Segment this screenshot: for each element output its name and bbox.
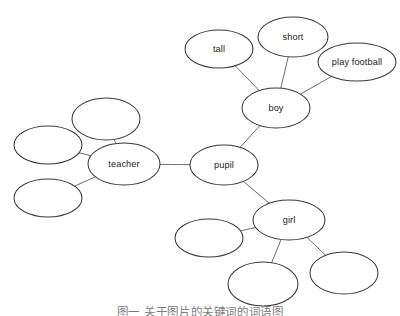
node-girl_blank_left[interactable] bbox=[175, 219, 243, 257]
edge-teacher-to-teacher_blank_left bbox=[79, 153, 91, 156]
node-teacher_blank_top[interactable] bbox=[72, 98, 140, 140]
node-label-teacher: teacher bbox=[108, 159, 139, 169]
node-pupil[interactable]: pupil bbox=[190, 145, 258, 185]
edge-pupil-to-girl bbox=[243, 181, 269, 203]
node-shape-girl_blank_right bbox=[310, 252, 378, 294]
node-label-tall: tall bbox=[213, 44, 225, 54]
node-girl_blank_bottom[interactable] bbox=[228, 262, 298, 306]
node-girl_blank_right[interactable] bbox=[310, 252, 378, 294]
node-label-boy: boy bbox=[268, 103, 283, 113]
node-label-girl: girl bbox=[283, 215, 296, 225]
edge-boy-to-play_football bbox=[300, 76, 331, 94]
node-label-pupil: pupil bbox=[214, 160, 234, 170]
node-shape-teacher_blank_bottom bbox=[14, 179, 82, 217]
edge-pupil-to-boy bbox=[240, 126, 260, 148]
edge-girl-to-girl_blank_left bbox=[241, 228, 256, 231]
node-tall[interactable]: tall bbox=[185, 30, 253, 68]
node-shape-girl_blank_left bbox=[175, 219, 243, 257]
node-teacher[interactable]: teacher bbox=[88, 143, 160, 185]
node-shape-girl_blank_bottom bbox=[228, 262, 298, 306]
node-teacher_blank_bottom[interactable] bbox=[14, 179, 82, 217]
node-play_football[interactable]: play football bbox=[318, 43, 396, 81]
node-short[interactable]: short bbox=[258, 17, 328, 57]
node-label-play_football: play football bbox=[332, 57, 382, 67]
node-shape-teacher_blank_left bbox=[14, 126, 82, 164]
edge-teacher-to-teacher_blank_top bbox=[114, 139, 116, 143]
edge-boy-to-tall bbox=[235, 66, 259, 91]
diagram-canvas: pupilteacherboygirltallshortplay footbal… bbox=[0, 0, 400, 316]
node-layer: pupilteacherboygirltallshortplay footbal… bbox=[14, 17, 396, 306]
edge-boy-to-short bbox=[281, 57, 289, 88]
node-boy[interactable]: boy bbox=[242, 88, 310, 128]
node-shape-teacher_blank_top bbox=[72, 98, 140, 140]
caption-clip: 图一 关于图片的关键词的词语图 bbox=[0, 305, 400, 316]
node-label-short: short bbox=[283, 32, 304, 42]
node-teacher_blank_left[interactable] bbox=[14, 126, 82, 164]
edge-girl-to-girl_blank_right bbox=[307, 237, 326, 255]
figure-caption: 图一 关于图片的关键词的词语图 bbox=[0, 305, 400, 316]
word-web-diagram: pupilteacherboygirltallshortplay footbal… bbox=[0, 0, 400, 316]
edge-girl-to-girl_blank_bottom bbox=[272, 240, 281, 263]
node-girl[interactable]: girl bbox=[253, 200, 325, 240]
edge-teacher-to-teacher_blank_bottom bbox=[75, 177, 96, 186]
